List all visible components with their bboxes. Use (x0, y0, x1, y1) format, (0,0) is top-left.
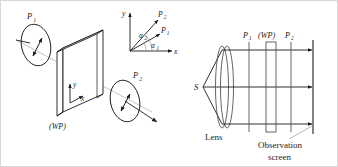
inset-vector-p1-label: P (160, 26, 166, 35)
polarizer-2-subscript: 2 (139, 76, 142, 82)
inset-axis-y-label: y (121, 9, 126, 18)
inset-axis-x-label: x (173, 47, 178, 56)
optics-diagram: y x (WP) P 1 P (0, 0, 338, 167)
wave-plate-edge-face (57, 48, 63, 116)
inset-vector-p1-subscript: 1 (167, 30, 170, 36)
inset-angle-1-label: α (151, 42, 155, 50)
bench-polarizer-1-label: P (242, 31, 248, 40)
bench-polarizer-2-subscript: 2 (291, 35, 294, 41)
polarizer-1-subscript: 1 (33, 17, 36, 23)
lens-label: Lens (205, 132, 223, 142)
inset-vector-p2-subscript: 2 (164, 14, 167, 20)
observation-screen-label-line1: Observation (258, 140, 302, 150)
inset-vector-p2-label: P (157, 10, 163, 19)
source-label: S (194, 82, 199, 92)
inset-angle-2-subscript: 2 (144, 35, 147, 41)
plate-axis-x-label: x (80, 94, 85, 103)
figure-root: y x (WP) P 1 P (0, 0, 338, 167)
polarizer-1-label: P (26, 12, 32, 21)
plate-axis-y-label: y (72, 80, 77, 89)
inset-angle-2-label: α (139, 32, 143, 40)
wave-plate-label: (WP) (49, 122, 66, 131)
observation-screen-label-line2: screen (268, 152, 291, 162)
polarizer-2-label: P (132, 71, 138, 80)
bench-polarizer-2-label: P (284, 31, 290, 40)
bench-wave-plate-label: (WP) (258, 31, 276, 40)
inset-angle-1-subscript: 1 (156, 45, 159, 51)
bench-polarizer-1-subscript: 1 (249, 35, 252, 41)
